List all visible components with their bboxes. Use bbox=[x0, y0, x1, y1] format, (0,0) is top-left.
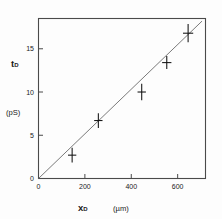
data-points bbox=[68, 24, 193, 162]
figure-panel: 0200400600 051015 tD (pS) xD (µm) bbox=[0, 0, 222, 219]
y-axis-title: tD bbox=[11, 53, 19, 71]
x-axis-unit: (µm) bbox=[113, 197, 129, 215]
x-tick-labels: 0200400600 bbox=[37, 183, 184, 190]
plot-canvas: 0200400600 051015 bbox=[0, 0, 222, 219]
x-tick-label: 400 bbox=[125, 183, 137, 190]
y-tick-label: 5 bbox=[30, 132, 34, 139]
y-axis-subscript: D bbox=[14, 62, 18, 68]
axis-ticks bbox=[39, 49, 178, 179]
x-tick-label: 600 bbox=[172, 183, 184, 190]
y-tick-labels: 051015 bbox=[26, 45, 34, 182]
x-axis-subscript: D bbox=[83, 206, 87, 212]
data-point bbox=[94, 113, 102, 128]
fit-line bbox=[39, 21, 203, 178]
y-tick-label: 15 bbox=[26, 45, 34, 52]
y-tick-label: 10 bbox=[26, 89, 34, 96]
data-point bbox=[183, 24, 193, 42]
data-point bbox=[138, 84, 146, 100]
data-point bbox=[68, 148, 76, 163]
scatter-plot-svg: 0200400600 051015 bbox=[0, 0, 222, 219]
x-tick-label: 200 bbox=[79, 183, 91, 190]
y-axis-unit: (pS) bbox=[6, 101, 20, 119]
x-tick-label: 0 bbox=[37, 183, 41, 190]
y-tick-label: 0 bbox=[30, 175, 34, 182]
x-axis-title: xD bbox=[78, 197, 88, 215]
